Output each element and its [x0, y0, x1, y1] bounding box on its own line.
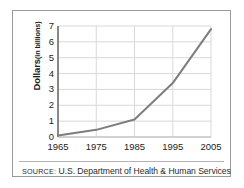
y-tick-label: 5 [49, 53, 54, 63]
y-axis-title-unit: (in billions) [33, 21, 42, 59]
x-tick-label: 1985 [124, 142, 145, 152]
y-tick-label: 4 [49, 69, 54, 79]
y-tick-label: 3 [49, 85, 54, 95]
x-tick-label: 1975 [86, 142, 107, 152]
source-note: SOURCE: U.S. Department of Health & Huma… [22, 165, 224, 178]
source-text: U.S. Department of Health & Human Servic… [59, 166, 231, 176]
y-tick-label: 6 [49, 37, 54, 47]
source-divider [19, 161, 224, 162]
line-chart: Dollars(in billions) 01234567 1965197519… [13, 11, 230, 159]
figure-card: Dollars(in billions) 01234567 1965197519… [12, 10, 231, 177]
plot-area: 01234567 19651975198519952005 [58, 26, 211, 137]
y-axis-title: Dollars(in billions) [26, 8, 40, 104]
y-tick-label: 1 [49, 116, 54, 126]
x-tick-label: 2005 [200, 142, 221, 152]
figure-root: Dollars(in billions) 01234567 1965197519… [0, 0, 244, 188]
y-axis-title-main: Dollars [31, 59, 42, 91]
x-tick-label: 1965 [47, 142, 68, 152]
y-tick-label: 7 [49, 21, 54, 31]
x-tick-label: 1995 [162, 142, 183, 152]
chart-series-line [58, 26, 211, 137]
source-kicker: SOURCE: [22, 167, 56, 176]
y-tick-label: 2 [49, 101, 54, 111]
